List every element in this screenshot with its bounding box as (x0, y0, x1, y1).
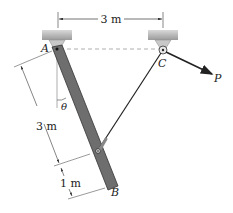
bar-ab (52, 45, 118, 190)
dimension-label-upper: 3 m (36, 120, 57, 133)
statics-diagram: 3 m A C B P θ 3 m (0, 0, 233, 213)
label-c: C (158, 57, 167, 70)
cable (100, 53, 161, 147)
dimension-top-span: 3 m (58, 12, 163, 28)
theta-arc (57, 98, 66, 100)
label-theta: θ (61, 101, 67, 112)
dimension-label-lower: 1 m (60, 177, 81, 190)
support-c (148, 30, 178, 54)
dimension-label-top: 3 m (101, 13, 122, 26)
label-b: B (110, 186, 119, 199)
force-p-arrow (166, 52, 212, 74)
label-p: P (213, 72, 222, 85)
pin-a-icon (56, 48, 59, 51)
label-a: A (40, 42, 49, 55)
